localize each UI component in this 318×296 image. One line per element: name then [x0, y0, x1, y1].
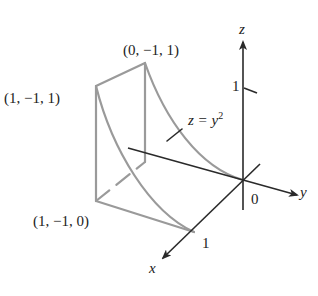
surface-equation-label: z = y2 — [188, 111, 223, 128]
edge-base-front — [96, 201, 194, 232]
axes — [128, 42, 297, 258]
z-axis-label: z — [239, 22, 245, 37]
surface-leader-line — [167, 129, 182, 141]
point-label-1-neg1-1: (1, −1, 1) — [4, 91, 60, 106]
edge-top — [96, 63, 145, 86]
point-label-0-neg1-1: (0, −1, 1) — [123, 43, 179, 58]
z-tick-label: 1 — [232, 79, 240, 94]
x-axis — [163, 164, 260, 258]
x-axis-label: x — [149, 261, 156, 276]
origin-label: 0 — [251, 192, 259, 207]
y-axis-label: y — [300, 185, 307, 200]
solid-edges — [96, 63, 243, 232]
diagram-canvas: (0, −1, 1) (1, −1, 1) (1, −1, 0) z y x 0… — [0, 0, 318, 296]
z-tick-1 — [244, 88, 257, 93]
point-label-1-neg1-0: (1, −1, 0) — [33, 214, 89, 229]
y-axis — [128, 148, 297, 195]
x-tick-label: 1 — [202, 236, 210, 251]
